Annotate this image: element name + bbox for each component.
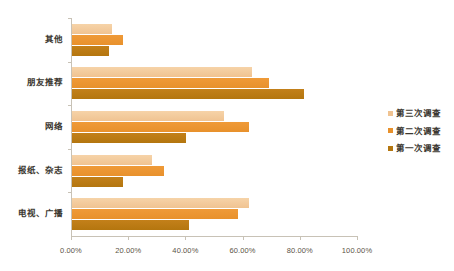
bar bbox=[72, 198, 249, 208]
legend-swatch-icon bbox=[388, 111, 393, 116]
bar-group: 电视、广播 bbox=[72, 192, 357, 236]
chart-legend: 第三次调查第二次调查第一次调查 bbox=[388, 109, 441, 162]
x-tick-label: 20.00% bbox=[115, 246, 141, 255]
y-tick bbox=[68, 62, 72, 63]
plot-area: 0.00%20.00%40.00%60.00%80.00%100.00% 其他朋… bbox=[71, 18, 357, 236]
bar bbox=[72, 177, 123, 187]
x-tick-label: 100.00% bbox=[342, 246, 372, 255]
x-tick bbox=[71, 236, 72, 240]
category-label: 朋友推荐 bbox=[27, 79, 63, 88]
x-tick bbox=[185, 236, 186, 240]
y-tick bbox=[68, 149, 72, 150]
y-tick bbox=[68, 192, 72, 193]
bar-group: 网络 bbox=[72, 105, 357, 149]
bar bbox=[72, 111, 224, 121]
bar-group: 其他 bbox=[72, 18, 357, 62]
y-tick bbox=[68, 105, 72, 106]
bar-group: 报纸、杂志 bbox=[72, 149, 357, 193]
x-tick bbox=[300, 236, 301, 240]
legend-item[interactable]: 第二次调查 bbox=[388, 127, 441, 136]
x-tick-label: 60.00% bbox=[230, 246, 256, 255]
bar bbox=[72, 67, 252, 77]
x-axis-line bbox=[71, 236, 358, 237]
category-label: 其他 bbox=[45, 35, 63, 44]
x-tick bbox=[128, 236, 129, 240]
bar bbox=[72, 78, 269, 88]
bar-chart: 0.00%20.00%40.00%60.00%80.00%100.00% 其他朋… bbox=[0, 0, 454, 271]
category-label: 网络 bbox=[45, 122, 63, 131]
legend-label: 第三次调查 bbox=[396, 109, 441, 118]
legend-swatch-icon bbox=[388, 146, 393, 151]
legend-item[interactable]: 第三次调查 bbox=[388, 109, 441, 118]
legend-item[interactable]: 第一次调查 bbox=[388, 144, 441, 153]
bar bbox=[72, 46, 109, 56]
category-label: 报纸、杂志 bbox=[18, 166, 63, 175]
bar bbox=[72, 155, 152, 165]
bar bbox=[72, 122, 249, 132]
x-tick-label: 40.00% bbox=[172, 246, 198, 255]
bar bbox=[72, 89, 304, 99]
x-tick-label: 80.00% bbox=[287, 246, 313, 255]
bar bbox=[72, 166, 164, 176]
bar bbox=[72, 133, 186, 143]
bar-group: 朋友推荐 bbox=[72, 62, 357, 106]
bar bbox=[72, 35, 123, 45]
bar bbox=[72, 209, 238, 219]
legend-label: 第二次调查 bbox=[396, 127, 441, 136]
legend-swatch-icon bbox=[388, 128, 393, 133]
category-label: 电视、广播 bbox=[18, 210, 63, 219]
bar bbox=[72, 24, 112, 34]
legend-label: 第一次调查 bbox=[396, 144, 441, 153]
y-tick bbox=[68, 18, 72, 19]
bar bbox=[72, 220, 189, 230]
x-tick bbox=[243, 236, 244, 240]
x-tick-label: 0.00% bbox=[60, 246, 82, 255]
x-tick bbox=[357, 236, 358, 240]
